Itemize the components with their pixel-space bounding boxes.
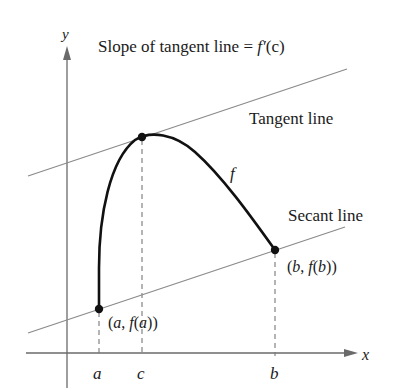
- point-b-label: (b, f(b)): [287, 258, 337, 276]
- slope-title-prefix: Slope of tangent line =: [98, 37, 257, 56]
- secant-line: [28, 227, 345, 333]
- point-a-label: (a, f(a)): [108, 314, 158, 332]
- tick-label-c: c: [137, 364, 145, 383]
- curve-f-label: f: [230, 164, 237, 183]
- y-axis-label: y: [60, 26, 69, 42]
- x-axis-arrow-icon: [344, 349, 358, 357]
- point-b: [271, 246, 279, 254]
- x-axis-label: x: [361, 346, 369, 363]
- point-a: [95, 305, 103, 313]
- y-axis-arrow-icon: [63, 46, 71, 60]
- tick-label-b: b: [270, 364, 279, 383]
- mean-value-theorem-diagram: y x Slope of tangent line = f′(c) Tangen…: [0, 0, 404, 388]
- slope-title-arg: (c): [266, 37, 285, 56]
- secant-line-label: Secant line: [288, 206, 363, 225]
- tick-label-a: a: [93, 364, 102, 383]
- curve-f: [99, 135, 275, 309]
- slope-title-func: f′: [257, 37, 266, 56]
- slope-title: Slope of tangent line = f′(c): [98, 37, 285, 56]
- tangent-line-label: Tangent line: [249, 109, 333, 128]
- point-c: [138, 133, 146, 141]
